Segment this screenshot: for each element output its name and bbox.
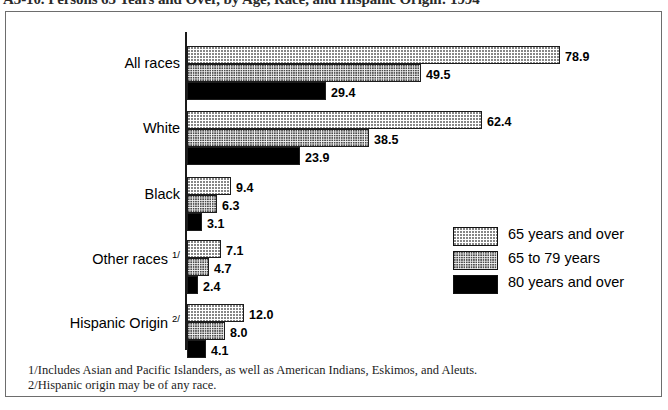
bar-white-65-to-79-years — [187, 129, 369, 147]
bar-value-label: 38.5 — [374, 134, 398, 147]
category-label-hispanic-origin: Hispanic Origin 2/ — [70, 313, 180, 331]
bar-group: Black 9.46.33.1 — [6, 177, 663, 231]
bar-value-label: 3.1 — [207, 218, 224, 231]
bar-all-races-65-to-79-years — [187, 64, 421, 82]
footnote-marker: 1/ — [172, 249, 180, 260]
footnote-1: 1/Includes Asian and Pacific Islanders, … — [28, 363, 477, 378]
bar-all-races-80-years-and-over — [187, 82, 326, 100]
bar-black-65-years-and-over — [187, 177, 231, 195]
bar-value-label: 29.4 — [331, 87, 355, 100]
bar-value-label: 2.4 — [203, 281, 220, 294]
category-label-black: Black — [145, 186, 180, 202]
bar-group: Hispanic Origin 2/12.08.04.1 — [6, 304, 663, 358]
footnote-2: 2/Hispanic origin may be of any race. — [28, 378, 477, 393]
plot-area: All races 78.949.529.4White 62.438.523.9… — [6, 12, 663, 352]
legend-label: 65 years and over — [508, 226, 624, 242]
legend-swatch-light-dot — [453, 227, 498, 246]
bar-value-label: 23.9 — [305, 152, 329, 165]
bar-value-label: 4.7 — [214, 263, 231, 276]
bar-white-65-years-and-over — [187, 111, 482, 129]
chart-frame: All races 78.949.529.4White 62.438.523.9… — [5, 11, 662, 397]
bar-value-label: 12.0 — [249, 309, 273, 322]
bar-white-80-years-and-over — [187, 147, 300, 165]
bar-other-races-65-to-79-years — [187, 258, 209, 276]
bar-value-label: 62.4 — [487, 116, 511, 129]
footnote-marker: 2/ — [172, 313, 180, 324]
bar-value-label: 78.9 — [565, 51, 589, 64]
bar-group: White 62.438.523.9 — [6, 111, 663, 165]
bar-other-races-80-years-and-over — [187, 276, 198, 294]
bar-value-label: 4.1 — [211, 345, 228, 358]
bar-value-label: 49.5 — [426, 69, 450, 82]
page-title: A3-10. Persons 65 Years and Over, by Age… — [3, 0, 480, 8]
legend-swatch-solid-black — [453, 275, 498, 294]
bar-other-races-65-years-and-over — [187, 240, 221, 258]
bar-value-label: 7.1 — [226, 245, 243, 258]
legend-label: 80 years and over — [508, 274, 624, 290]
bar-hispanic-origin-80-years-and-over — [187, 340, 206, 358]
category-label-white: White — [143, 120, 180, 136]
bar-all-races-65-years-and-over — [187, 46, 560, 64]
bar-group: All races 78.949.529.4 — [6, 46, 663, 100]
bar-hispanic-origin-65-years-and-over — [187, 304, 244, 322]
legend-label: 65 to 79 years — [508, 250, 600, 266]
bar-black-80-years-and-over — [187, 213, 202, 231]
bar-black-65-to-79-years — [187, 195, 217, 213]
legend-swatch-dense-dot — [453, 251, 498, 270]
bar-value-label: 9.4 — [236, 182, 253, 195]
bar-hispanic-origin-65-to-79-years — [187, 322, 225, 340]
category-label-other-races: Other races 1/ — [92, 249, 180, 267]
category-label-all-races: All races — [124, 55, 180, 71]
chart-title-row: A3-10. Persons 65 Years and Over, by Age… — [0, 0, 668, 11]
bar-value-label: 6.3 — [222, 200, 239, 213]
footnotes: 1/Includes Asian and Pacific Islanders, … — [28, 363, 477, 393]
bar-value-label: 8.0 — [230, 327, 247, 340]
